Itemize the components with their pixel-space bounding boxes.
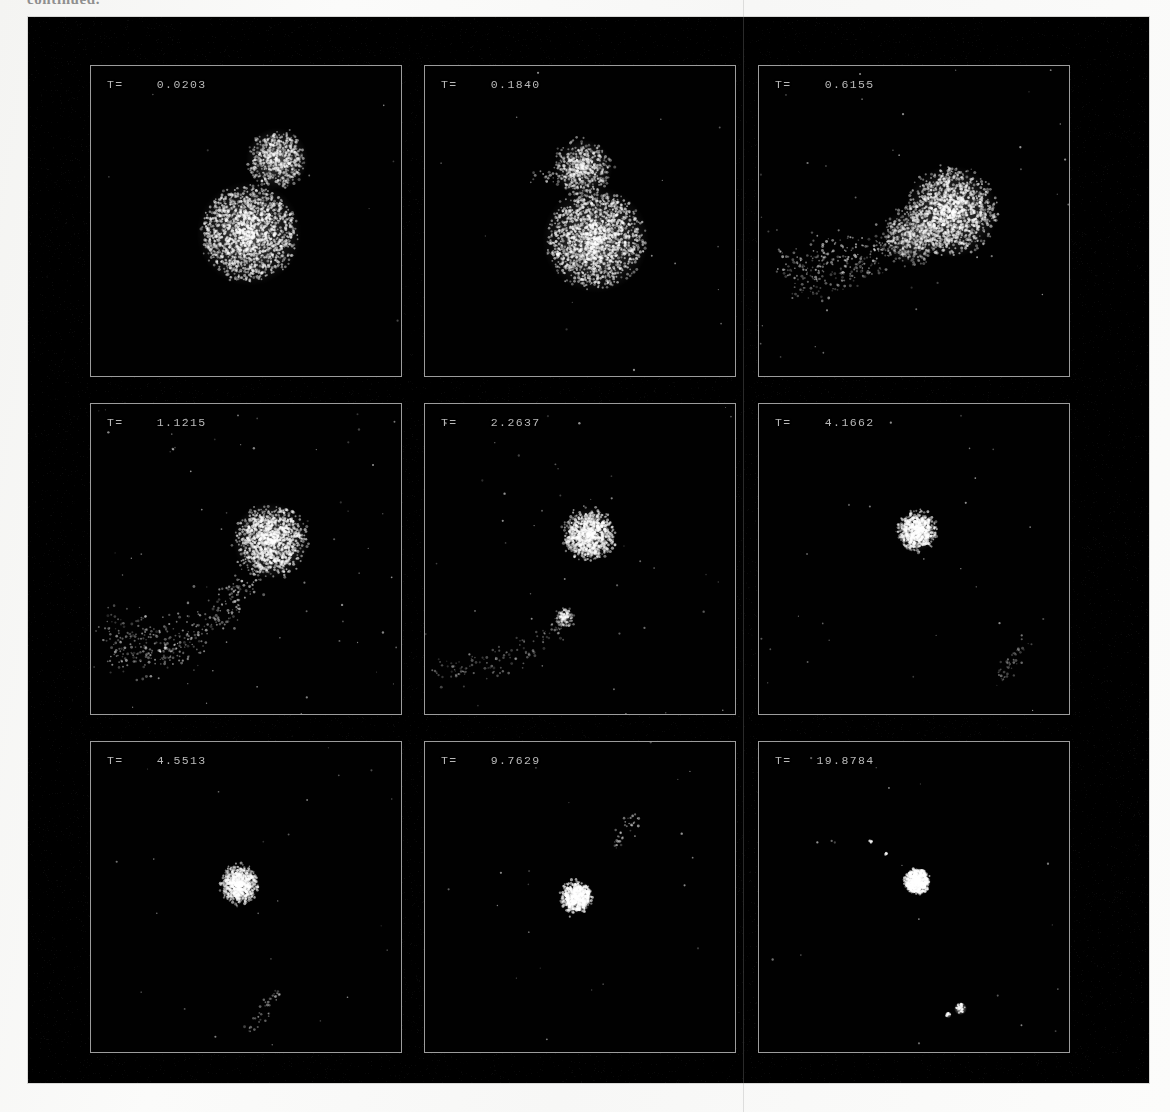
particle-plot-2	[425, 66, 735, 376]
particle-plot-6	[759, 404, 1069, 714]
particle-plot-8	[425, 742, 735, 1052]
particle-plot-7	[91, 742, 401, 1052]
time-label-8: T= 9.7629	[441, 754, 541, 767]
figure-caption-text: continued.	[27, 0, 100, 8]
time-label-5: T= 2.2637	[441, 416, 541, 429]
simulation-panel-9[interactable]: T= 19.8784	[758, 741, 1070, 1053]
figure-plate: T= 0.0203 T= 0.1840 T= 0.6155 T= 1.1215 …	[28, 17, 1149, 1083]
time-label-6: T= 4.1662	[775, 416, 875, 429]
time-label-7: T= 4.5513	[107, 754, 207, 767]
panel-grid: T= 0.0203 T= 0.1840 T= 0.6155 T= 1.1215 …	[90, 65, 1090, 1053]
particle-plot-5	[425, 404, 735, 714]
particle-plot-9	[759, 742, 1069, 1052]
figure-caption-strip: continued.	[0, 0, 1170, 9]
time-label-1: T= 0.0203	[107, 78, 207, 91]
particle-plot-3	[759, 66, 1069, 376]
particle-plot-1	[91, 66, 401, 376]
simulation-panel-6[interactable]: T= 4.1662	[758, 403, 1070, 715]
time-label-2: T= 0.1840	[441, 78, 541, 91]
particle-plot-4	[91, 404, 401, 714]
time-label-4: T= 1.1215	[107, 416, 207, 429]
simulation-panel-2[interactable]: T= 0.1840	[424, 65, 736, 377]
simulation-panel-3[interactable]: T= 0.6155	[758, 65, 1070, 377]
simulation-panel-7[interactable]: T= 4.5513	[90, 741, 402, 1053]
simulation-panel-5[interactable]: T= 2.2637	[424, 403, 736, 715]
simulation-panel-8[interactable]: T= 9.7629	[424, 741, 736, 1053]
simulation-panel-4[interactable]: T= 1.1215	[90, 403, 402, 715]
simulation-panel-1[interactable]: T= 0.0203	[90, 65, 402, 377]
time-label-3: T= 0.6155	[775, 78, 875, 91]
time-label-9: T= 19.8784	[775, 754, 875, 767]
